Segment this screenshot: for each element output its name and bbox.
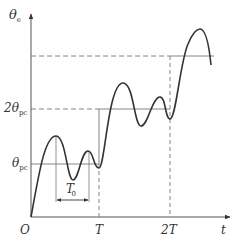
y-axis-label: θe — [9, 8, 21, 24]
x-axis-label: t — [221, 224, 226, 236]
two-theta-symbol: θ — [12, 101, 19, 115]
diagram-canvas — [0, 0, 239, 243]
period-subscript: 0 — [72, 190, 76, 198]
period-superscript: ′ — [73, 182, 75, 190]
two-theta-pc-label: 2θpc — [4, 102, 27, 117]
x-tick-label-t: T — [95, 224, 103, 236]
y-axis-subscript: e — [17, 16, 21, 24]
period-label: T′0 — [66, 183, 76, 198]
x-tick-label-2t: 2T — [161, 224, 177, 236]
origin-label: O — [20, 224, 30, 236]
theta-pc-label: θpc — [12, 157, 28, 172]
two-theta-subscript: pc — [19, 109, 27, 117]
response-curve — [31, 29, 211, 217]
two-theta-prefix: 2 — [4, 101, 12, 115]
theta-subscript: pc — [19, 164, 27, 172]
y-axis-symbol: θ — [9, 7, 17, 22]
